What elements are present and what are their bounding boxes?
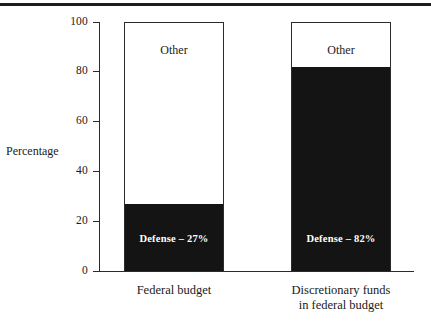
y-tick-100 <box>93 22 99 23</box>
y-tick-80 <box>93 71 99 72</box>
category-label-discretionary-funds-line2: in federal budget <box>281 298 401 313</box>
bar-federal-budget: Other Defense – 27% <box>124 22 224 272</box>
category-label-discretionary-funds: Discretionary funds in federal budget <box>281 283 401 312</box>
y-tick-label-20: 20 <box>28 215 88 227</box>
y-tick-0 <box>93 271 99 272</box>
y-tick-label-40: 40 <box>28 165 88 177</box>
plot-area: 100 80 60 40 20 0 Percentage Other Defen… <box>0 0 431 323</box>
y-axis-line <box>99 22 100 271</box>
y-axis-title: Percentage <box>6 145 59 158</box>
category-label-discretionary-funds-line1: Discretionary funds <box>281 283 401 298</box>
bar-discretionary-funds: Other Defense – 82% <box>291 22 391 272</box>
bar-federal-budget-defense-label: Defense – 27% <box>125 233 223 245</box>
y-tick-20 <box>93 221 99 222</box>
y-tick-label-60: 60 <box>28 115 88 127</box>
y-tick-40 <box>93 171 99 172</box>
bar-discretionary-funds-other-label: Other <box>292 44 390 57</box>
category-label-federal-budget: Federal budget <box>114 283 234 298</box>
bar-federal-budget-other-label: Other <box>125 44 223 57</box>
y-tick-label-80: 80 <box>28 65 88 77</box>
bar-discretionary-funds-defense-label: Defense – 82% <box>292 233 390 245</box>
y-tick-label-0: 0 <box>28 265 88 277</box>
chart-figure: 100 80 60 40 20 0 Percentage Other Defen… <box>0 0 431 323</box>
category-label-federal-budget-line1: Federal budget <box>114 283 234 298</box>
y-tick-label-100: 100 <box>28 16 88 28</box>
y-tick-60 <box>93 121 99 122</box>
